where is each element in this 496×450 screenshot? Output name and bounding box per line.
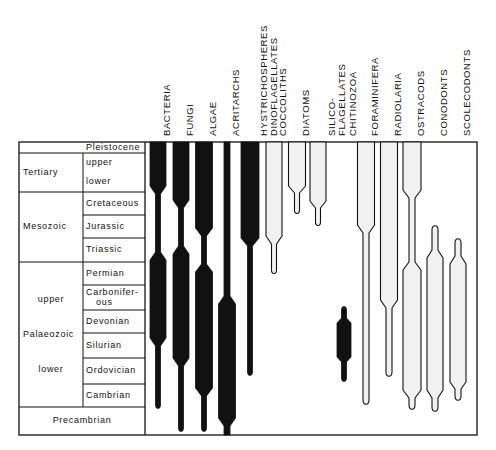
- column-label-fungi: FUNGI: [185, 103, 195, 136]
- period-label-devonian: Devonian: [86, 316, 130, 326]
- range-bar-hystrichospheres-dinoflagellates: [241, 142, 259, 376]
- column-label-line: ALGAE: [208, 101, 218, 136]
- column-label-line: FUNGI: [185, 103, 195, 136]
- range-chart-canvas: [0, 0, 496, 450]
- period-label-cretaceous: Cretaceous: [86, 198, 139, 208]
- fossil-range-chart: BACTERIAFUNGIALGAEACRITARCHSHYSTRICHOSPH…: [0, 0, 496, 450]
- period-label-silurian: Silurian: [86, 340, 122, 350]
- era-sublabel-upper: upper: [38, 294, 65, 304]
- range-bar-bacteria: [150, 142, 166, 409]
- period-label-ordovician: Ordovician: [86, 365, 136, 375]
- range-bar-radiolaria: [381, 142, 398, 376]
- column-label-line: FORAMINIFERA: [370, 57, 380, 136]
- period-label-precambrian: Precambrian: [53, 415, 112, 425]
- range-bar-foraminifera: [358, 142, 375, 404]
- column-label-line: OSTRACODS: [416, 70, 426, 136]
- column-label-foraminifera: FORAMINIFERA: [370, 57, 380, 136]
- column-label-line: FLAGELLATES: [337, 64, 347, 136]
- period-label-upper: upper: [86, 157, 113, 167]
- period-label-triassic: Triassic: [86, 244, 122, 254]
- column-label-conodonts: CONODONTS: [439, 69, 449, 136]
- column-label-line: ACRITARCHS: [231, 69, 241, 136]
- range-bar-chitinozoa: [337, 307, 351, 382]
- era-label-mesozoic: Mesozoic: [23, 221, 67, 231]
- column-label-chitinozoa: CHITINOZOA: [348, 71, 358, 136]
- range-bar-scolecodonts: [450, 239, 466, 400]
- column-label-line: CHITINOZOA: [348, 71, 358, 136]
- column-label-silico-flagellates: SILICO-FLAGELLATES: [327, 64, 347, 136]
- range-bar-acritarchs: [219, 142, 236, 435]
- column-label-coccoliths: COCCOLITHS: [278, 68, 288, 136]
- range-bar-fungi: [173, 142, 189, 432]
- period-label-carbonifer-ous: Carbonifer-ous: [86, 287, 139, 307]
- column-label-line: DIATOMS: [301, 89, 311, 136]
- column-label-hystrichospheres-dinoflagellates: HYSTRICHOSPHERESDINOFLAGELLATES: [259, 25, 279, 136]
- range-bar-silico-flagellates: [310, 142, 326, 226]
- column-label-scolecodonts: SCOLECODONTS: [462, 49, 472, 136]
- range-bar-coccoliths: [266, 142, 282, 274]
- column-label-ostracods: OSTRACODS: [416, 70, 426, 136]
- column-label-bacteria: BACTERIA: [162, 84, 172, 136]
- period-label-pleistocene: Pleistocene: [86, 142, 140, 152]
- column-label-line: BACTERIA: [162, 84, 172, 136]
- range-bar-ostracods: [403, 142, 421, 409]
- column-label-diatoms: DIATOMS: [301, 89, 311, 136]
- period-label-lower: lower: [86, 176, 111, 186]
- column-label-algae: ALGAE: [208, 101, 218, 136]
- column-label-line: CONODONTS: [439, 69, 449, 136]
- period-label-cambrian: Cambrian: [86, 390, 131, 400]
- range-bar-algae: [196, 142, 213, 432]
- era-sublabel-lower: lower: [38, 364, 63, 374]
- column-label-acritarchs: ACRITARCHS: [231, 69, 241, 136]
- column-label-line: COCCOLITHS: [278, 68, 288, 136]
- range-bar-conodonts: [427, 226, 443, 411]
- column-label-radiolaria: RADIOLARIA: [393, 72, 403, 136]
- period-label-permian: Permian: [86, 268, 124, 278]
- range-bar-diatoms: [289, 142, 306, 214]
- column-label-line: SCOLECODONTS: [462, 49, 472, 136]
- column-label-line: RADIOLARIA: [393, 72, 403, 136]
- period-label-jurassic: Jurassic: [86, 221, 125, 231]
- era-label-tertiary: Tertiary: [23, 167, 58, 177]
- era-label-palaeozoic: Palaeozoic: [23, 329, 74, 339]
